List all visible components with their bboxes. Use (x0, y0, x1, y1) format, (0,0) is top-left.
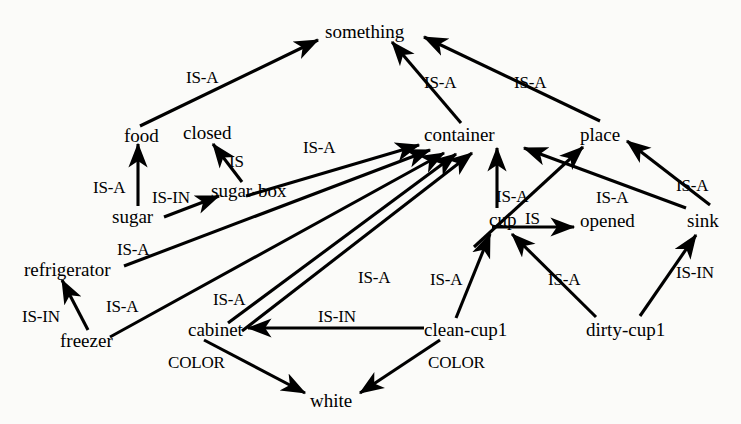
semantic-network-diagram: something food closed container place su… (0, 0, 741, 424)
edge-label-cleancup1-white: COLOR (428, 354, 485, 371)
edge-label-food-something: IS-A (186, 69, 218, 86)
edge-label-sugarbox-container: IS-A (303, 139, 335, 156)
node-freezer[interactable]: freezer (60, 331, 113, 350)
edge-label-sink-container: IS-A (596, 189, 628, 206)
edge-label-cleancup1-cabinet: IS-IN (318, 308, 356, 325)
edge-label-sugar-sugarbox: IS-IN (152, 189, 190, 206)
node-sink[interactable]: sink (687, 211, 719, 230)
edge-label-cleancup1-container: IS-A (358, 269, 390, 286)
edge-label-sugar-food: IS-A (93, 179, 125, 196)
node-sugar[interactable]: sugar (112, 207, 153, 226)
edge-label-cabinet-white: COLOR (168, 354, 225, 371)
edge-food-something (140, 40, 318, 126)
edge-label-place-something: IS-A (514, 74, 546, 91)
edge-label-refrigerator-container: IS-A (117, 241, 149, 258)
node-refrigerator[interactable]: refrigerator (24, 260, 111, 279)
node-container[interactable]: container (424, 125, 495, 144)
node-sugar-box[interactable]: sugar-box (211, 181, 287, 200)
edge-label-container-something: IS-A (424, 74, 456, 91)
node-clean-cup1[interactable]: clean-cup1 (424, 320, 507, 339)
edge-label-sugarbox-closed: IS (229, 153, 244, 170)
edge-label-cup-container: IS-A (496, 188, 528, 205)
node-place[interactable]: place (580, 125, 620, 144)
edge-label-cup-opened: IS (525, 210, 540, 227)
node-closed[interactable]: closed (183, 123, 232, 142)
edge-cleancup1-place (474, 147, 583, 247)
edge-label-dirtycup1-sink: IS-IN (676, 264, 714, 281)
edge-label-dirtycup1-cup: IS-A (548, 271, 580, 288)
node-opened[interactable]: opened (580, 211, 635, 230)
node-something[interactable]: something (325, 22, 404, 41)
node-dirty-cup1[interactable]: dirty-cup1 (586, 320, 665, 339)
node-cabinet[interactable]: cabinet (188, 320, 243, 339)
node-cup[interactable]: cup (489, 210, 516, 229)
edge-label-cabinet-container: IS-A (213, 291, 245, 308)
node-white[interactable]: white (310, 391, 352, 410)
edge-freezer-refrigerator (62, 280, 88, 330)
edge-sink-place (627, 141, 710, 205)
edge-label-freezer-container: IS-A (106, 298, 138, 315)
edge-label-cleancup1-cup: IS-A (430, 271, 462, 288)
node-food[interactable]: food (124, 126, 159, 145)
edge-label-freezer-refrigerator: IS-IN (22, 308, 60, 325)
edge-label-sink-place: IS-A (676, 177, 708, 194)
